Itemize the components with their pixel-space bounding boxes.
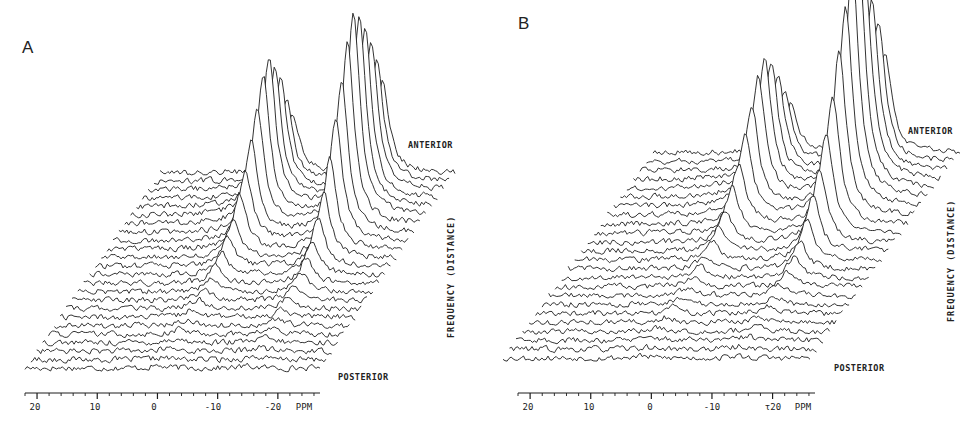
tick-label-minus-20: -20 xyxy=(265,402,281,412)
tick-label-10: 10 xyxy=(90,402,101,412)
tick-label-20: 20 xyxy=(523,402,534,412)
axis-unit-ppm-b: PPM xyxy=(795,402,811,412)
anterior-label-a: ANTERIOR xyxy=(408,140,453,150)
stacked-spectra-plot-b xyxy=(490,0,979,429)
frequency-distance-label-a: FREQUENCY (DISTANCE) xyxy=(446,216,456,338)
ppm-axis xyxy=(518,393,815,399)
tick-label-10: 10 xyxy=(584,402,595,412)
ppm-axis xyxy=(25,393,320,399)
tick-label-minus-20: τ20 xyxy=(765,402,781,412)
stacked-spectra-plot-a xyxy=(0,0,490,429)
tick-label-minus-10: -10 xyxy=(205,402,221,412)
spectrum-trace xyxy=(160,80,455,175)
spectrum-trace xyxy=(653,55,960,156)
tick-label-0: 0 xyxy=(151,402,156,412)
posterior-label-a: POSTERIOR xyxy=(338,372,389,382)
panel-a: A ANTERIOR POSTERIOR FREQUENCY (DISTANCE… xyxy=(0,0,490,429)
tick-label-minus-10: -10 xyxy=(704,402,720,412)
panel-b: B ANTERIOR POSTERIOR FREQUENCY (DISTANCE… xyxy=(490,0,979,429)
posterior-label-b: POSTERIOR xyxy=(834,363,885,373)
frequency-distance-label-b: FREQUENCY (DISTANCE) xyxy=(946,200,956,322)
tick-label-0: 0 xyxy=(647,402,652,412)
panel-letter-b: B xyxy=(518,14,529,34)
axis-unit-ppm-a: PPM xyxy=(296,402,312,412)
tick-label-20: 20 xyxy=(30,402,41,412)
panel-letter-a: A xyxy=(22,38,33,58)
anterior-label-b: ANTERIOR xyxy=(908,126,953,136)
